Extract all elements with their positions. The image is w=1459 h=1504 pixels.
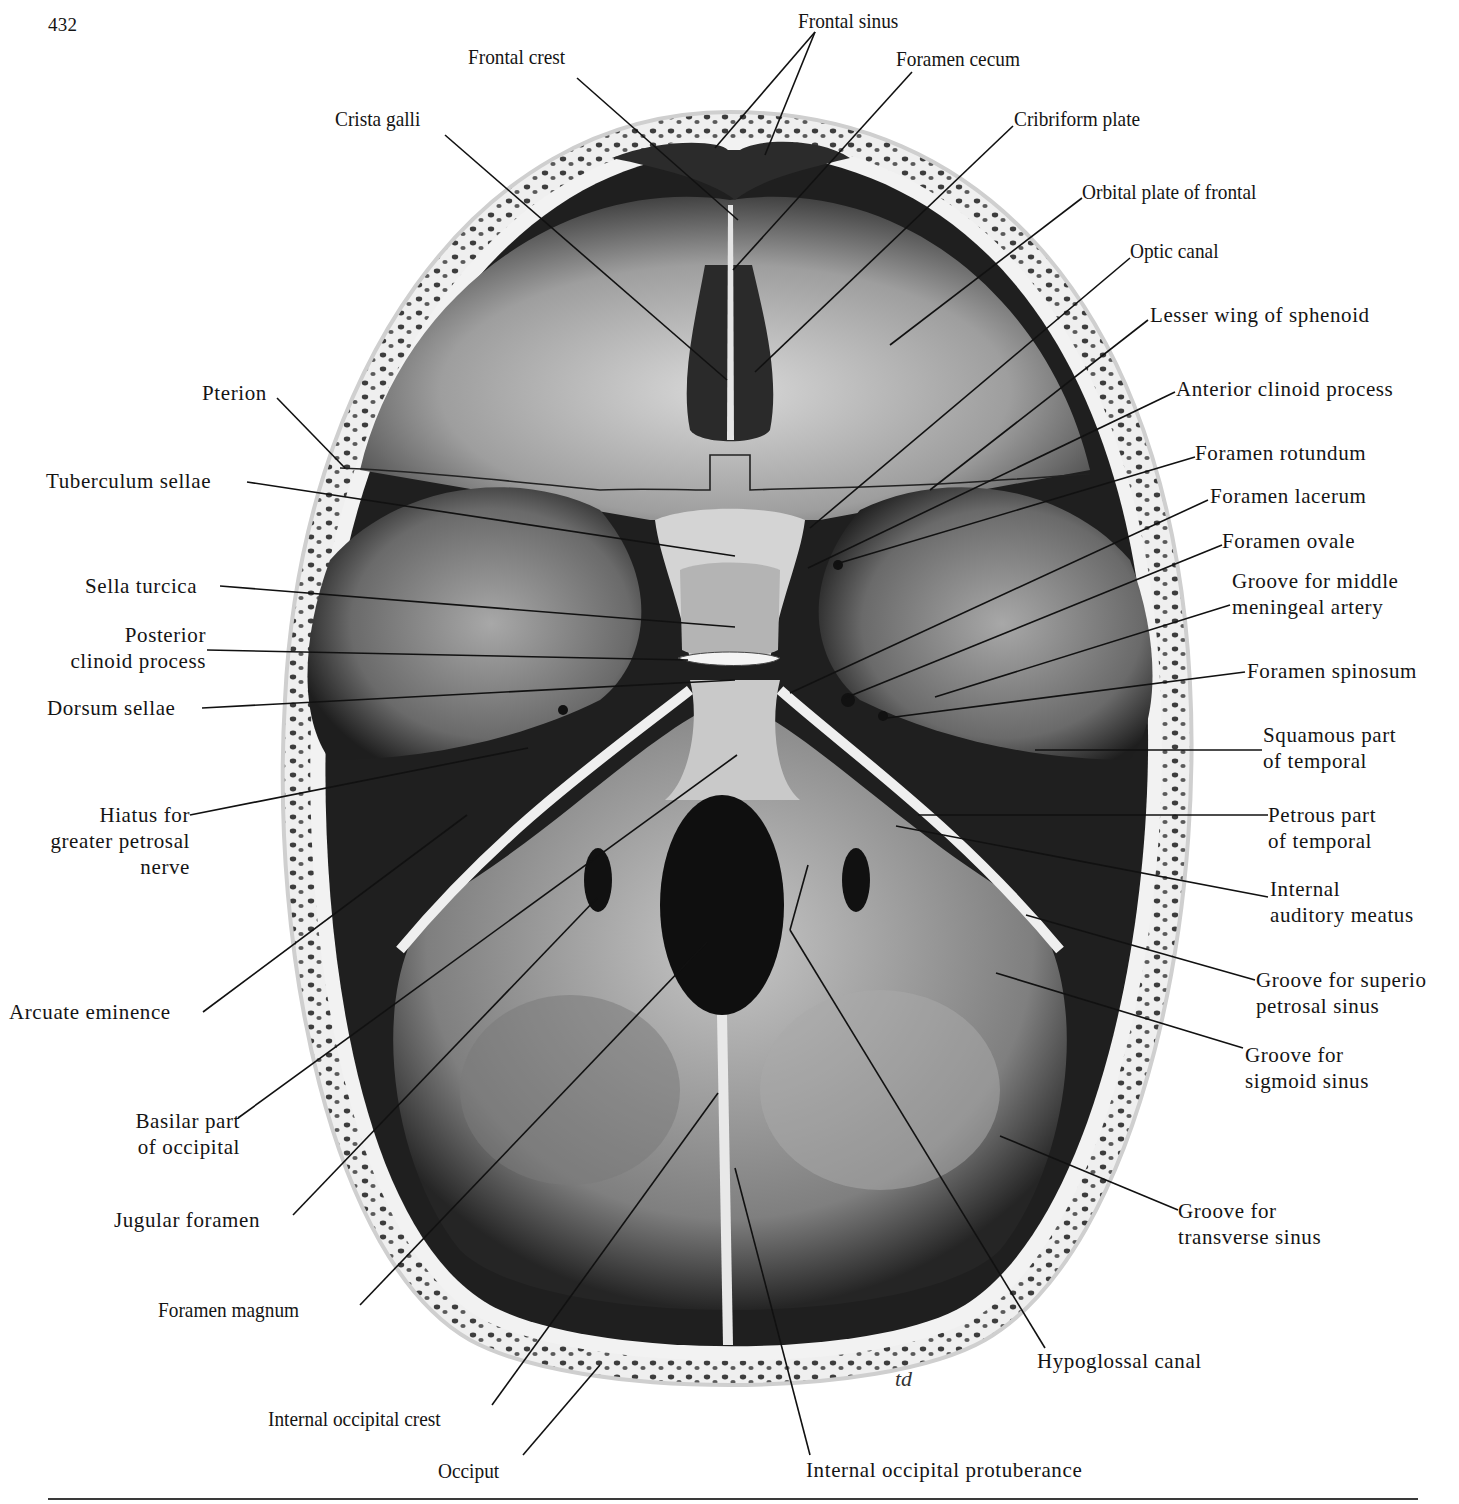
label-tuberculum-sellae: Tuberculum sellae: [46, 468, 211, 494]
label-internal-auditory-meatus: Internal auditory meatus: [1270, 876, 1414, 928]
artist-signature: td: [895, 1366, 912, 1392]
crista-galli-shape: [727, 205, 734, 440]
figure-plate: 432: [0, 0, 1459, 1504]
label-jugular-foramen: Jugular foramen: [114, 1207, 260, 1233]
label-posterior-clinoid-process: Posterior clinoid process: [44, 622, 206, 674]
label-groove-middle-meningeal-artery: Groove for middle meningeal artery: [1232, 568, 1399, 620]
bottom-rule: [48, 1498, 1418, 1500]
label-anterior-clinoid-process: Anterior clinoid process: [1176, 376, 1393, 402]
label-frontal-sinus: Frontal sinus: [798, 8, 898, 34]
foramen-spinosum-dot: [878, 711, 888, 721]
cerebellar-fossa-left: [460, 995, 680, 1185]
label-dorsum-sellae: Dorsum sellae: [47, 695, 176, 721]
label-lesser-wing-of-sphenoid: Lesser wing of sphenoid: [1150, 302, 1370, 328]
sella-turcica-shape: [680, 563, 780, 658]
jugular-foramen-left: [584, 848, 612, 912]
label-pterion: Pterion: [202, 380, 267, 406]
label-squamous-part-of-temporal: Squamous part of temporal: [1263, 722, 1396, 774]
label-cribriform-plate: Cribriform plate: [1014, 106, 1140, 132]
label-frontal-crest: Frontal crest: [468, 44, 565, 70]
label-foramen-rotundum: Foramen rotundum: [1195, 440, 1366, 466]
foramen-magnum-shape: [660, 795, 784, 1015]
cranial-base-illustration: [0, 0, 1459, 1504]
label-groove-sigmoid-sinus: Groove for sigmoid sinus: [1245, 1042, 1369, 1094]
label-foramen-magnum: Foramen magnum: [158, 1297, 299, 1323]
label-basilar-part-of-occipital: Basilar part of occipital: [100, 1108, 240, 1160]
label-foramen-lacerum: Foramen lacerum: [1210, 483, 1367, 509]
label-crista-galli: Crista galli: [335, 106, 420, 132]
label-foramen-spinosum: Foramen spinosum: [1247, 658, 1417, 684]
label-hypoglossal-canal: Hypoglossal canal: [1037, 1348, 1202, 1374]
label-internal-occipital-protuberance: Internal occipital protuberance: [806, 1457, 1082, 1483]
foramen-rotundum-dot: [833, 560, 843, 570]
label-sella-turcica: Sella turcica: [85, 573, 197, 599]
label-petrous-part-of-temporal: Petrous part of temporal: [1268, 802, 1376, 854]
label-orbital-plate-of-frontal: Orbital plate of frontal: [1082, 179, 1256, 205]
label-internal-occipital-crest: Internal occipital crest: [268, 1406, 441, 1432]
label-hiatus-greater-petrosal-nerve: Hiatus for greater petrosal nerve: [14, 802, 190, 880]
label-occiput: Occiput: [438, 1458, 499, 1484]
label-groove-transverse-sinus: Groove for transverse sinus: [1178, 1198, 1321, 1250]
jugular-foramen-right: [842, 848, 870, 912]
label-foramen-cecum: Foramen cecum: [896, 46, 1020, 72]
foramen-spinosum-left-dot: [558, 705, 568, 715]
label-groove-superior-petrosal-sinus: Groove for superio petrosal sinus: [1256, 967, 1427, 1019]
cerebellar-fossa-right: [760, 990, 1000, 1190]
label-optic-canal: Optic canal: [1130, 238, 1219, 264]
label-arcuate-eminence: Arcuate eminence: [9, 999, 171, 1025]
internal-occipital-crest-shape: [722, 1015, 728, 1345]
label-foramen-ovale: Foramen ovale: [1222, 528, 1355, 554]
